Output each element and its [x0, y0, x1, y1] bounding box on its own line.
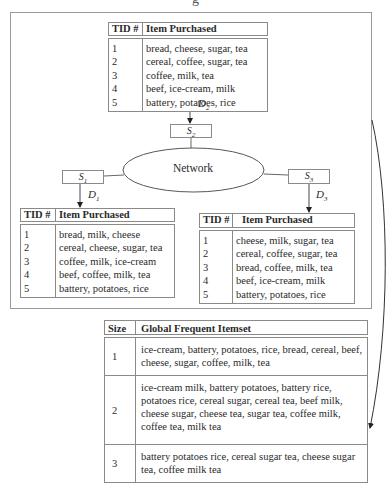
database-label-d3: D3 [316, 188, 327, 203]
transaction-table-d3: TID # Item Purchased 1 2 3 4 5 cheese, m… [199, 213, 355, 304]
items-cell: coffee, milk, tea [146, 69, 248, 82]
site-s3: S3 [288, 169, 330, 184]
table-header: TID # Item Purchased [199, 213, 355, 228]
size-cell: 2 [105, 376, 136, 444]
table-header: TID # Item Purchased [108, 22, 268, 36]
size-cell: 3 [105, 445, 136, 482]
items-cell: cereal, coffee, sugar, tea [236, 247, 337, 260]
table-header: Size Global Frequent Itemset [104, 320, 368, 335]
database-label-d2: D2 [198, 97, 209, 112]
items-cell: battery, potatoes, rice [236, 288, 337, 301]
cutoff-caption: g [0, 0, 391, 7]
size-cell: 1 [105, 338, 136, 375]
curved-result-arrow [370, 120, 385, 428]
items-cell: beef, ice-cream, milk [236, 274, 337, 287]
tid-cell: 3 [112, 69, 142, 82]
tid-cell: 1 [112, 42, 142, 55]
global-frequent-itemset-table: Size Global Frequent Itemset 1 ice-cream… [104, 320, 368, 483]
items-cell: battery, potatoes, rice [146, 96, 248, 109]
items-cell: cereal, coffee, sugar, tea [146, 55, 248, 68]
tid-cell: 3 [24, 255, 55, 268]
site-s1: S1 [62, 170, 104, 184]
items-cell: coffee, milk, ice-cream [59, 255, 162, 268]
items-cell: bread, cheese, sugar, tea [146, 42, 248, 55]
itemset-cell: ice-cream milk, battery potatoes, batter… [136, 376, 367, 444]
tid-cell: 4 [203, 274, 232, 287]
tid-cell: 5 [203, 288, 232, 301]
tid-cell: 3 [203, 261, 232, 274]
header-items: Item Purchased [233, 214, 313, 227]
table-row: 3 battery potatoes rice, cereal sugar te… [105, 444, 367, 482]
header-size: Size [105, 321, 136, 334]
header-tid: TID # [109, 23, 143, 35]
tid-cell: 5 [112, 96, 142, 109]
table-header: TID # Item Purchased [20, 208, 175, 222]
header-items: Item Purchased [56, 209, 130, 221]
table-body: 1 2 3 4 5 bread, cheese, sugar, tea cere… [108, 38, 268, 112]
tid-cell: 2 [24, 241, 55, 254]
site-s2: S2 [170, 124, 212, 138]
items-cell: bread, coffee, milk, tea [236, 261, 337, 274]
table-row: 1 ice-cream, battery, potatoes, rice, br… [105, 338, 367, 375]
table-row: 2 ice-cream milk, battery potatoes, batt… [105, 375, 367, 444]
items-cell: cheese, milk, sugar, tea [236, 234, 337, 247]
table-body: 1 2 3 4 5 bread, milk, cheese cereal, ch… [20, 224, 175, 298]
tid-cell: 1 [203, 234, 232, 247]
tid-cell: 2 [112, 55, 142, 68]
tid-cell: 2 [203, 247, 232, 260]
itemset-cell: battery potatoes rice, cereal sugar tea,… [136, 445, 367, 482]
transaction-table-d2: TID # Item Purchased 1 2 3 4 5 bread, ch… [108, 22, 268, 112]
header-tid: TID # [200, 214, 233, 227]
transaction-table-d1: TID # Item Purchased 1 2 3 4 5 bread, mi… [20, 208, 175, 298]
items-cell: beef, ice-cream, milk [146, 82, 248, 95]
database-label-d1: D1 [88, 188, 99, 203]
items-cell: beef, coffee, milk, tea [59, 268, 162, 281]
header-items: Item Purchased [143, 23, 217, 35]
itemset-cell: ice-cream, battery, potatoes, rice, brea… [136, 338, 367, 375]
table-body: 1 2 3 4 5 cheese, milk, sugar, tea cerea… [199, 230, 355, 304]
items-cell: bread, milk, cheese [59, 228, 162, 241]
header-tid: TID # [21, 209, 56, 221]
network-label: Network [163, 162, 223, 174]
header-itemset: Global Frequent Itemset [136, 321, 251, 334]
items-cell: cereal, cheese, sugar, tea [59, 241, 162, 254]
table-body: 1 ice-cream, battery, potatoes, rice, br… [104, 337, 368, 483]
tid-cell: 4 [112, 82, 142, 95]
tid-cell: 5 [24, 282, 55, 295]
tid-cell: 1 [24, 228, 55, 241]
tid-cell: 4 [24, 268, 55, 281]
items-cell: battery, potatoes, rice [59, 282, 162, 295]
